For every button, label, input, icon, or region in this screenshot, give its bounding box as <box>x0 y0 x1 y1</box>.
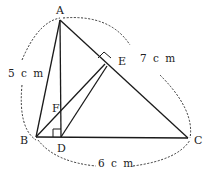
length-label-ab: 5 c m <box>8 67 45 79</box>
dimension-arc-bc-right <box>133 140 190 166</box>
segment-be <box>36 64 105 137</box>
point-label-d: D <box>57 142 66 155</box>
dimension-arc-ab-lower <box>21 85 36 140</box>
segment-ad <box>60 20 61 137</box>
point-label-c: C <box>194 134 202 147</box>
point-label-e: E <box>118 55 126 68</box>
dimension-arc-ab <box>22 18 60 60</box>
dimension-arc-ac-lower <box>160 75 191 138</box>
point-label-a: A <box>55 4 65 17</box>
triangle-diagram: A B C D E F 5 c m 7 c m 6 c m <box>0 0 211 175</box>
length-label-bc: 6 c m <box>98 157 135 169</box>
dimension-arc-bc-left <box>38 140 96 166</box>
segment-de <box>61 66 107 137</box>
point-label-b: B <box>20 134 28 147</box>
segment-bc <box>36 137 188 138</box>
point-label-f: F <box>52 102 60 115</box>
length-label-ac: 7 c m <box>140 52 177 64</box>
right-angle-mark-d <box>53 129 61 137</box>
